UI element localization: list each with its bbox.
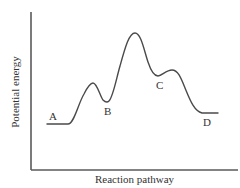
diagram-canvas bbox=[0, 0, 240, 188]
point-label-a: A bbox=[49, 111, 57, 122]
energy-curve bbox=[47, 33, 218, 124]
point-label-b: B bbox=[104, 106, 111, 117]
point-label-d: D bbox=[203, 117, 211, 128]
point-label-c: C bbox=[156, 80, 163, 91]
y-axis-label: Potential energy bbox=[10, 56, 21, 128]
energy-diagram: A B C D Reaction pathway Potential energ… bbox=[0, 0, 240, 188]
x-axis-label: Reaction pathway bbox=[95, 174, 174, 185]
